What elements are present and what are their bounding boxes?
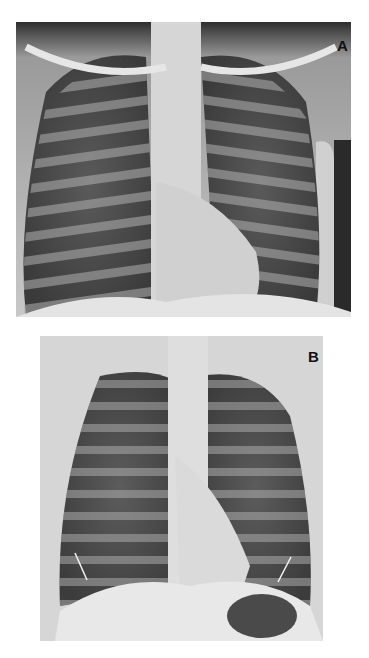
panel-label-b: B	[308, 349, 319, 364]
radiograph-panel-a: A	[16, 22, 351, 317]
chest-xray-a-image	[16, 22, 351, 317]
chest-xray-b-image	[40, 336, 323, 641]
panel-label-a: A	[337, 38, 348, 53]
radiograph-panel-b: B	[40, 336, 323, 641]
